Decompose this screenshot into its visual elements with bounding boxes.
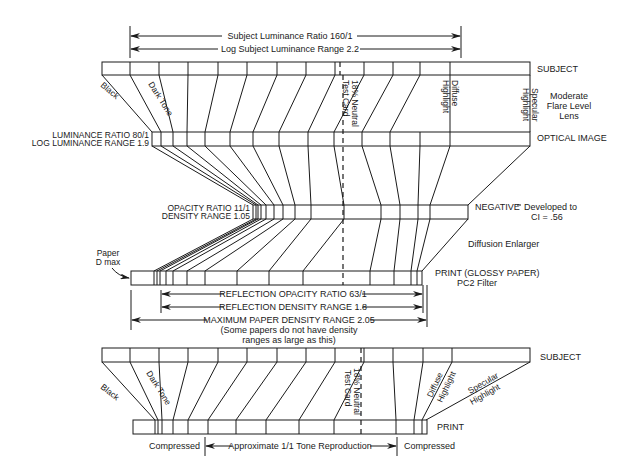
- luminance-ratio-label: Subject Luminance Ratio 160/1: [227, 31, 352, 41]
- specular-label-top-2: Highlight: [521, 88, 531, 122]
- reflection-density-label: REFLECTION DENSITY RANGE 1.8: [219, 302, 367, 312]
- subject-luminance-dimension: Subject Luminance Ratio 160/1 Log Subjec…: [130, 26, 461, 58]
- print-glossy-strip: [131, 271, 422, 285]
- print-glossy-label-2: PC2 Filter: [457, 278, 497, 288]
- approx-tone-label: Approximate 1/1 Tone Reproduction: [228, 441, 371, 451]
- print-glossy-label-1: PRINT (GLOSSY PAPER): [435, 268, 540, 278]
- tone-reproduction-dimension: Compressed Approximate 1/1 Tone Reproduc…: [149, 437, 455, 456]
- black-label-bottom: Black: [99, 382, 122, 403]
- flare-label-1: Moderate: [550, 91, 588, 101]
- neutral-label-bottom-2: Test Card: [343, 370, 353, 407]
- flare-label-3: Lens: [559, 111, 579, 121]
- print-dimensions: REFLECTION OPACITY RATIO 63/1 REFLECTION…: [131, 285, 427, 345]
- paper-note-1: (Some papers do not have density: [220, 325, 358, 335]
- paper-note-2: ranges as large as this): [242, 335, 336, 345]
- negative-to-print-lines: [154, 219, 468, 271]
- compressed-right-label: Compressed: [404, 441, 455, 451]
- diffuse-label-top-2: Highlight: [441, 80, 451, 114]
- print-strip-bottom: [133, 420, 427, 434]
- print-label-bottom: PRINT: [437, 422, 465, 432]
- optical-image-label: OPTICAL IMAGE: [537, 133, 607, 143]
- negative-strip: [253, 205, 468, 219]
- negative-dev-label-2: CI = .56: [531, 212, 563, 222]
- negative-label: NEGATIVE: [475, 202, 520, 212]
- enlarger-label: Diffusion Enlarger: [468, 239, 539, 249]
- compressed-left-label: Compressed: [149, 441, 200, 451]
- subject-label-top: SUBJECT: [537, 64, 579, 74]
- optical-image-strip: [152, 132, 530, 146]
- log-luminance-range-label: LOG LUMINANCE RANGE 1.9: [32, 138, 149, 148]
- optical-to-negative-lines: [152, 146, 530, 205]
- max-paper-density-label: MAXIMUM PAPER DENSITY RANGE 2.05: [203, 315, 375, 325]
- subject-strip-top: [102, 62, 530, 75]
- reflection-opacity-label: REFLECTION OPACITY RATIO 63/1: [219, 289, 367, 299]
- tone-reproduction-diagram: Subject Luminance Ratio 160/1 Log Subjec…: [0, 0, 619, 476]
- flare-label-2: Flare Level: [547, 101, 592, 111]
- black-label-top: Black: [99, 80, 122, 102]
- subject-label-bottom: SUBJECT: [540, 352, 582, 362]
- paper-dmax-label-2: D max: [96, 257, 121, 267]
- subject-strip-bottom: [102, 348, 530, 362]
- paper-dmax-arrow: [112, 268, 129, 278]
- negative-dev-label-1: Developed to: [524, 202, 577, 212]
- density-range-label: DENSITY RANGE 1.05: [162, 211, 250, 221]
- log-range-label: Log Subject Luminance Range 2.2: [221, 44, 359, 54]
